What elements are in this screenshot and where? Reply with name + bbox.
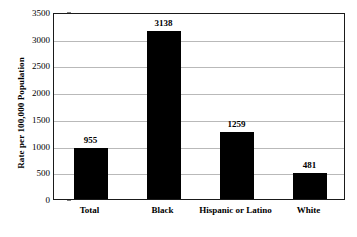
y-axis-tick-label: 1500	[18, 115, 50, 125]
x-axis-labels: TotalBlackHispanic or LatinoWhite	[53, 205, 345, 227]
y-axis-tick-label: 3500	[18, 8, 50, 18]
gridline	[54, 67, 344, 68]
y-axis-tick-label: 2500	[18, 61, 50, 71]
gridline	[54, 41, 344, 42]
x-axis-category-label: Black	[151, 205, 173, 215]
x-axis-category-label: Total	[80, 205, 100, 215]
bar	[220, 132, 254, 199]
y-axis-ticks: 0500100015002000250030003500	[18, 13, 50, 200]
y-axis-tick-label: 1000	[18, 142, 50, 152]
gridline	[54, 121, 344, 122]
y-axis-tick-label: 3000	[18, 35, 50, 45]
bar-value-label: 3138	[155, 18, 173, 28]
bar-value-label: 955	[84, 135, 98, 145]
x-axis-category-label: White	[297, 205, 321, 215]
y-axis-tick-label: 500	[18, 168, 50, 178]
bar	[293, 173, 327, 199]
bar-value-label: 481	[303, 160, 317, 170]
bar	[74, 148, 108, 199]
y-axis-tick-label: 2000	[18, 88, 50, 98]
bar-value-label: 1259	[228, 119, 246, 129]
plot-area: 95531381259481	[53, 13, 345, 200]
gridline	[54, 94, 344, 95]
bar	[147, 31, 181, 199]
y-axis-tick-label: 0	[18, 195, 50, 205]
bar-chart: Rate per 100,000 Population 050010001500…	[0, 0, 357, 237]
x-axis-category-label: Hispanic or Latino	[199, 205, 271, 215]
